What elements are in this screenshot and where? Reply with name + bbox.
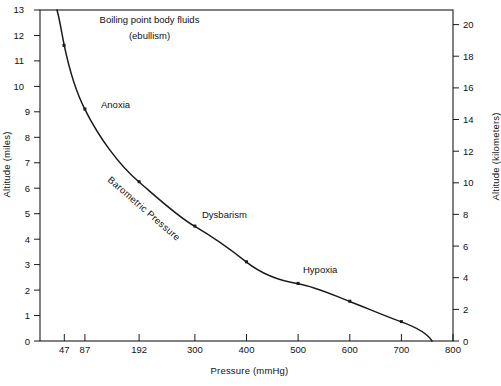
y-tick-label-right: 2	[463, 304, 485, 315]
y-tick-label-left: 12	[4, 30, 24, 41]
annotation-dysbarism: Dysbarism	[202, 209, 247, 220]
y-tick-label-left: 2	[10, 285, 30, 296]
x-axis-title: Pressure (mmHg)	[0, 365, 499, 376]
data-point-marker	[348, 300, 351, 303]
annotation-hypoxia: Hypoxia	[303, 264, 337, 275]
y-tick-label-left: 3	[10, 259, 30, 270]
data-point-marker	[138, 180, 141, 183]
x-tick-label: 800	[433, 344, 473, 355]
annotation-anoxia: Anoxia	[101, 99, 130, 110]
x-axis-ticks	[64, 334, 453, 341]
data-point-marker	[297, 282, 300, 285]
y-tick-label-right: 10	[463, 177, 485, 188]
x-tick-label: 192	[119, 344, 159, 355]
data-point-marker	[63, 44, 66, 47]
x-tick-label: 400	[227, 344, 267, 355]
annotation-boiling-point-line2: (ebullism)	[57, 30, 242, 41]
y-axis-left-ticks	[34, 10, 40, 341]
y-tick-label-right: 18	[463, 51, 485, 62]
y-tick-label-left: 7	[10, 157, 30, 168]
x-tick-label: 600	[330, 344, 370, 355]
data-point-marker	[245, 260, 248, 263]
y-axis-title-left: Altitude (miles)	[1, 134, 12, 198]
annotation-boiling-point-line1: Boiling point body fluids	[57, 14, 242, 25]
y-tick-label-right: 6	[463, 241, 485, 252]
data-point-marker	[400, 320, 403, 323]
data-point-marker	[193, 225, 196, 228]
y-tick-label-right: 20	[463, 19, 485, 30]
y-tick-label-left: 9	[10, 106, 30, 117]
y-tick-label-left: 1	[10, 310, 30, 321]
y-tick-label-left: 6	[10, 183, 30, 194]
y-tick-label-left: 4	[10, 234, 30, 245]
x-tick-label: 87	[65, 344, 105, 355]
y-tick-label-left: 5	[10, 208, 30, 219]
y-tick-label-right: 4	[463, 272, 485, 283]
y-axis-title-right: Altitude (kilometers)	[490, 121, 501, 201]
y-tick-label-left: 11	[4, 55, 24, 66]
data-point-marker	[83, 108, 86, 111]
y-tick-label-left: 0	[10, 336, 30, 347]
y-tick-label-right: 14	[463, 114, 485, 125]
x-tick-label: 700	[381, 344, 421, 355]
x-tick-label: 500	[278, 344, 318, 355]
y-tick-label-left: 10	[4, 81, 24, 92]
y-axis-right-ticks	[453, 25, 459, 341]
y-tick-label-left: 13	[4, 4, 24, 15]
y-tick-label-left: 8	[10, 132, 30, 143]
plot-frame	[40, 10, 453, 341]
x-tick-label: 300	[175, 344, 215, 355]
y-tick-label-right: 12	[463, 146, 485, 157]
y-tick-label-right: 8	[463, 209, 485, 220]
y-tick-label-right: 16	[463, 82, 485, 93]
